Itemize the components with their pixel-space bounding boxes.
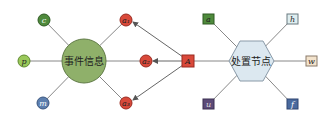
node-label: a₁	[122, 16, 130, 25]
node-label: a	[206, 15, 211, 24]
action-node-a1: a₁	[120, 14, 132, 26]
node-label: a₃	[122, 99, 130, 108]
node-label: h	[290, 15, 295, 24]
node-label: a₂	[142, 57, 150, 66]
agent-node: A	[182, 55, 194, 67]
left-node-m: m	[37, 97, 49, 109]
node-label: A	[184, 57, 191, 66]
node-label: p	[21, 57, 26, 66]
left-node-c: c	[38, 14, 50, 26]
action-node-a2: a₂	[140, 55, 152, 67]
handle-node-label: 处置节点	[231, 56, 271, 67]
right-node-h: h	[287, 14, 298, 24]
right-node-w: w	[306, 56, 317, 66]
diagram: 事件信息 c p m a₁ a₂ a₃ A 处置节点 a h	[0, 0, 332, 120]
action-node-a3: a₃	[120, 97, 132, 109]
node-label: u	[206, 100, 211, 109]
left-node-p: p	[18, 55, 30, 67]
node-label: c	[42, 16, 47, 25]
right-node-u: u	[203, 99, 214, 109]
event-node-label: 事件信息	[64, 55, 104, 67]
node-label: w	[308, 57, 315, 66]
node-label: m	[39, 99, 47, 108]
right-node-f: f	[287, 99, 298, 109]
event-node: 事件信息	[62, 39, 106, 83]
right-node-a: a	[203, 14, 214, 24]
handle-node: 处置节点	[229, 41, 274, 81]
